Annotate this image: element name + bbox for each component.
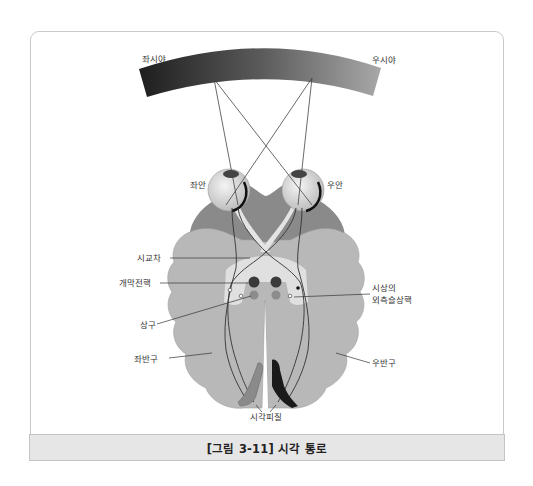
label-right-hemisphere: 우반구 — [372, 358, 396, 368]
figure-caption-band: [그림 3-11] 시각 통로 — [29, 434, 505, 461]
lgn-left-marker — [228, 288, 232, 292]
figure-caption: [그림 3-11] 시각 통로 — [207, 440, 327, 456]
label-superior-colliculus: 상구 — [140, 320, 156, 330]
label-left-eye: 좌안 — [190, 180, 206, 190]
lgn-right-marker — [296, 286, 300, 290]
label-optic-chiasm: 시교차 — [137, 253, 161, 263]
label-right-visual-field: 우시야 — [372, 55, 396, 65]
lgn-left-marker-2 — [239, 294, 243, 298]
pretectal-nucleus-left — [249, 277, 260, 288]
pretectal-nucleus-right — [271, 277, 282, 288]
left-eyeball — [208, 169, 250, 211]
label-visual-cortex: 시각피질 — [250, 412, 282, 422]
label-lgn-line2: 외측슬상핵 — [372, 295, 412, 305]
label-pretectal-nucleus: 개막전핵 — [119, 278, 151, 288]
label-left-visual-field: 좌시야 — [142, 54, 166, 64]
visual-pathway-diagram: 좌시야 우시야 좌안 우안 시교차 개막전핵 상구 좌반구 시상의 외측슬상핵 … — [0, 0, 533, 486]
label-lgn-line1: 시상의 — [372, 283, 396, 293]
label-right-eye: 우안 — [327, 180, 343, 190]
visual-field-arc — [139, 48, 381, 97]
lgn-right-marker-2 — [288, 294, 292, 298]
superior-colliculus-right — [272, 291, 281, 300]
label-left-hemisphere: 좌반구 — [134, 354, 158, 364]
right-eyeball — [282, 169, 324, 211]
superior-colliculus-left — [250, 291, 259, 300]
